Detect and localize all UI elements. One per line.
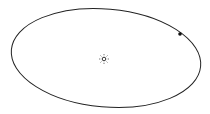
orbit-diagram — [0, 0, 210, 114]
orbit-ellipse — [7, 1, 205, 114]
sun-icon — [99, 54, 109, 64]
planet-dot — [178, 32, 182, 36]
